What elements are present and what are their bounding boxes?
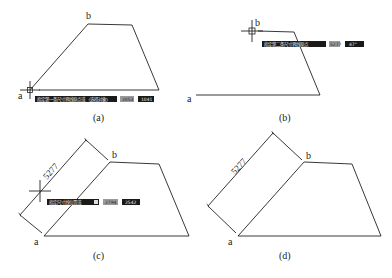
- extension-line-b: [273, 133, 302, 160]
- prompt-dropdown-icon[interactable]: [94, 200, 98, 204]
- dynamic-input-prompt: 指定尺寸线位置或 2794 2542: [47, 199, 140, 206]
- prompt-field-2-value: 2542: [125, 200, 137, 205]
- dynamic-input-prompt: 指定第二条尺寸界线原点 5277 47°: [262, 41, 364, 48]
- trapezoid-outline: [258, 31, 320, 95]
- extension-line-a: [20, 215, 42, 233]
- caption-a: (a): [93, 112, 104, 124]
- figure-canvas: b a 指定第一条尺寸界线原点或 〈选择对象〉 2053 1041 (a) b …: [0, 0, 392, 278]
- prompt-field-1-value: 2794: [105, 200, 117, 205]
- extension-line-b: [86, 140, 108, 160]
- caption-c: (c): [93, 250, 104, 262]
- prompt-field-1-value: 2053: [122, 97, 134, 102]
- prompt-field-2-value: 47°: [349, 42, 357, 47]
- dimension-text: 5277: [41, 161, 61, 181]
- trapezoid-outline: [30, 24, 159, 90]
- point-label-b: b: [86, 10, 91, 21]
- prompt-field-1-value: 5277: [330, 42, 342, 47]
- panel-a: b a 指定第一条尺寸界线原点或 〈选择对象〉 2053 1041 (a): [18, 10, 159, 124]
- prompt-instruction: 指定第二条尺寸界线原点: [264, 41, 309, 48]
- point-label-b: b: [112, 149, 117, 160]
- point-label-a: a: [228, 236, 233, 247]
- dimension-text: 5277: [229, 156, 249, 176]
- caption-d: (d): [279, 250, 291, 262]
- panel-d: 5277 b a (d): [206, 131, 381, 262]
- prompt-instruction: 指定第一条尺寸界线原点或 〈选择对象〉: [37, 96, 110, 103]
- trapezoid-outline: [238, 162, 381, 236]
- point-label-a: a: [18, 90, 23, 101]
- dynamic-input-prompt: 指定第一条尺寸界线原点或 〈选择对象〉 2053 1041: [35, 96, 154, 103]
- caption-b: (b): [279, 112, 291, 124]
- point-label-a: a: [187, 93, 192, 104]
- point-label-a: a: [34, 236, 39, 247]
- point-label-b: b: [255, 17, 260, 28]
- point-label-b: b: [306, 150, 311, 161]
- panel-b: b a 指定第二条尺寸界线原点 5277 47° (b): [187, 17, 364, 124]
- prompt-instruction: 指定尺寸线位置或: [49, 199, 82, 206]
- extension-line-a: [208, 206, 236, 233]
- panel-c: 5277 b a 指定尺寸线位置或 2794 2542 (c): [18, 138, 189, 262]
- prompt-field-2-value: 1041: [141, 97, 153, 102]
